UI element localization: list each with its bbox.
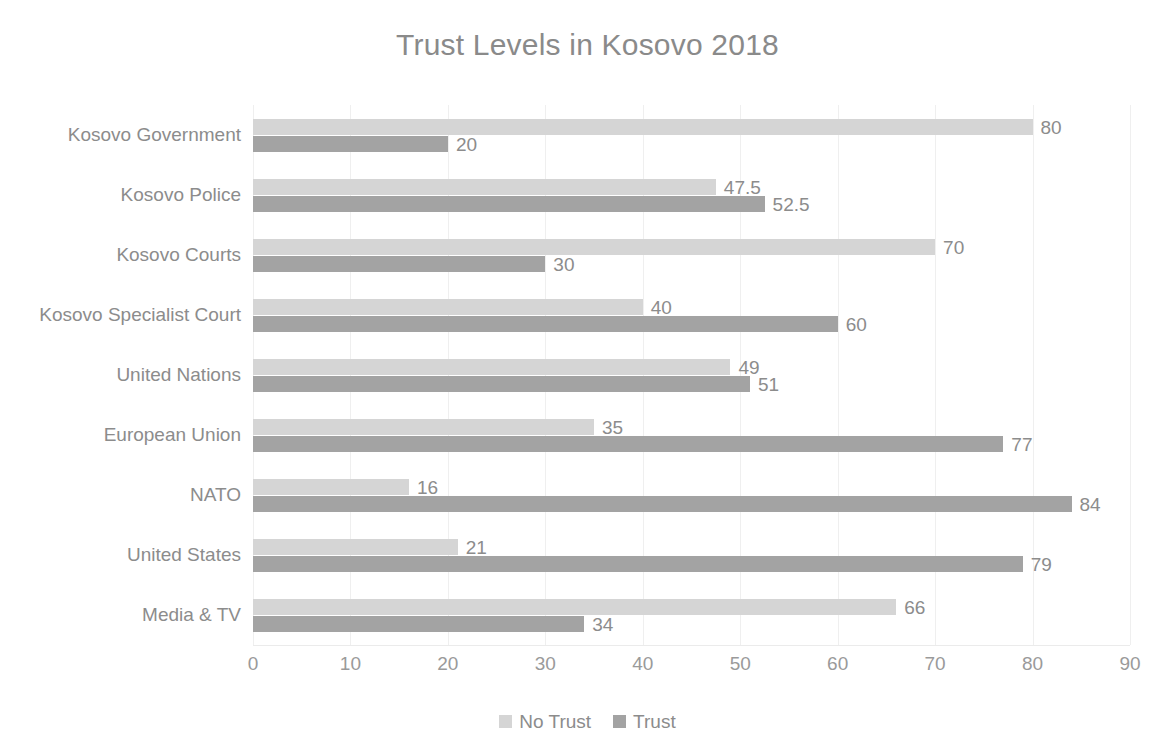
category-label: Kosovo Police [0,185,241,204]
chart-container: Trust Levels in Kosovo 2018 802047.552.5… [0,0,1175,755]
x-tick-label: 90 [1100,654,1160,673]
category-label: European Union [0,425,241,444]
category-label: Kosovo Courts [0,245,241,264]
category-label: Kosovo Government [0,125,241,144]
category-label: NATO [0,485,241,504]
x-tick-label: 50 [710,654,770,673]
legend-swatch-icon [499,715,512,728]
chart-legend: No TrustTrust [0,712,1175,731]
x-tick-label: 20 [418,654,478,673]
legend-item-no-trust[interactable]: No Trust [499,712,591,731]
category-label: United Nations [0,365,241,384]
category-label: Media & TV [0,605,241,624]
x-tick-label: 0 [223,654,283,673]
x-tick-label: 40 [613,654,673,673]
x-tick-label: 80 [1003,654,1063,673]
x-tick-label: 60 [808,654,868,673]
legend-swatch-icon [613,715,626,728]
legend-item-trust[interactable]: Trust [613,712,676,731]
x-tick-label: 30 [515,654,575,673]
legend-label: No Trust [519,712,591,731]
category-label: Kosovo Specialist Court [0,305,241,324]
category-axis-labels: Kosovo GovernmentKosovo PoliceKosovo Cou… [0,0,1175,755]
category-label: United States [0,545,241,564]
legend-label: Trust [633,712,676,731]
x-tick-label: 70 [905,654,965,673]
x-tick-label: 10 [320,654,380,673]
